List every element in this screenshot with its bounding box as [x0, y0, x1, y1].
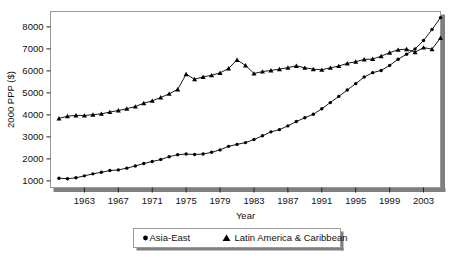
marker-circle [405, 52, 408, 55]
y-tick-label-6000: 6000 [22, 65, 43, 76]
marker-circle [346, 88, 349, 91]
marker-circle [57, 177, 60, 180]
marker-circle [159, 158, 162, 161]
y-tick-label-4000: 4000 [22, 109, 43, 120]
x-tick-label-1983: 1983 [243, 195, 264, 206]
marker-circle [218, 148, 221, 151]
marker-circle [430, 28, 433, 31]
marker-circle [303, 116, 306, 119]
plot-shadow-bottom [54, 188, 446, 192]
x-tick-label-1987: 1987 [277, 195, 298, 206]
marker-circle [278, 128, 281, 131]
marker-circle [167, 155, 170, 158]
marker-circle [261, 134, 264, 137]
marker-circle [83, 174, 86, 177]
marker-circle [439, 16, 442, 19]
plot-shadow-right [441, 15, 445, 192]
marker-circle [100, 171, 103, 174]
x-tick-label-1967: 1967 [108, 195, 129, 206]
marker-circle [235, 143, 238, 146]
marker-circle [422, 39, 425, 42]
x-tick-label-1979: 1979 [209, 195, 230, 206]
y-tick-label-5000: 5000 [22, 87, 43, 98]
x-tick-label-1999: 1999 [379, 195, 400, 206]
y-tick-label-7000: 7000 [22, 43, 43, 54]
legend-shadow-bottom [137, 248, 344, 251]
plot-area [51, 12, 441, 188]
marker-circle [125, 166, 128, 169]
marker-circle [379, 69, 382, 72]
marker-circle [388, 64, 391, 67]
marker-circle [66, 177, 69, 180]
marker-circle [108, 169, 111, 172]
marker-circle [286, 124, 289, 127]
y-tick-label-2000: 2000 [22, 153, 43, 164]
marker-circle [134, 164, 137, 167]
line-chart: 1000200030004000500060007000800019631967… [0, 0, 457, 261]
marker-circle [151, 160, 154, 163]
marker-circle [91, 172, 94, 175]
y-tick-label-3000: 3000 [22, 131, 43, 142]
marker-circle [371, 71, 374, 74]
marker-circle [184, 152, 187, 155]
legend-label-latin-america: Latin America & Caribbean [235, 232, 348, 243]
marker-circle [117, 168, 120, 171]
chart-figure: 1000200030004000500060007000800019631967… [0, 0, 457, 261]
marker-circle [295, 120, 298, 123]
x-tick-label-1991: 1991 [311, 195, 332, 206]
x-tick-label-2003: 2003 [413, 195, 434, 206]
x-axis-title: Year [236, 210, 255, 221]
x-tick-label-1971: 1971 [142, 195, 163, 206]
legend-marker-circle-icon [143, 236, 148, 241]
marker-circle [210, 151, 213, 154]
marker-circle [396, 58, 399, 61]
marker-circle [329, 101, 332, 104]
x-tick-label-1963: 1963 [74, 195, 95, 206]
marker-circle [354, 82, 357, 85]
x-tick-label-1995: 1995 [345, 195, 366, 206]
y-axis-title: 2000 PPP ($) [5, 71, 16, 128]
y-tick-label-8000: 8000 [22, 21, 43, 32]
marker-circle [74, 176, 77, 179]
y-tick-label-1000: 1000 [22, 175, 43, 186]
marker-circle [362, 75, 365, 78]
x-tick-label-1975: 1975 [176, 195, 197, 206]
marker-circle [193, 153, 196, 156]
marker-circle [201, 152, 204, 155]
marker-circle [227, 145, 230, 148]
marker-circle [337, 95, 340, 98]
marker-circle [269, 130, 272, 133]
legend-label-asia-east: Asia-East [150, 232, 191, 243]
marker-circle [252, 138, 255, 141]
marker-circle [176, 153, 179, 156]
marker-circle [244, 141, 247, 144]
marker-circle [320, 107, 323, 110]
marker-circle [312, 113, 315, 116]
marker-circle [142, 162, 145, 165]
